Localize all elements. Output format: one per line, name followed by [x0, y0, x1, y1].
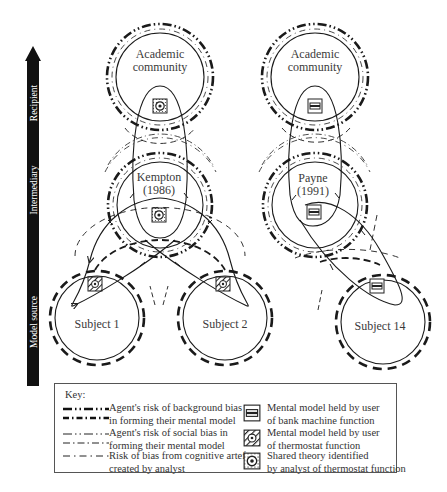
academic-right-line2: community — [288, 60, 343, 74]
key-item-background-bias-line1: Agent's risk of background bias — [109, 402, 242, 415]
kempton-line2: (1986) — [143, 183, 175, 197]
thermostat-model-icon — [88, 277, 102, 291]
academic-left-line1: Academic — [136, 47, 185, 61]
academic-right-line1: Academic — [291, 47, 340, 61]
key-item-shared-theory-line1: Shared theory identified — [267, 450, 406, 463]
thermostat-hatched-icon — [243, 429, 261, 447]
axis-label-intermediary: Intermediary — [29, 165, 39, 214]
key-item-artefact-bias-line2: created by analyst — [109, 463, 258, 476]
shared-theory-icon — [243, 452, 261, 470]
background-bias-line-icon — [63, 402, 109, 426]
key-item-background-bias-line2: in forming their mental model — [109, 415, 242, 428]
node-kempton: Kempton (1986) — [108, 153, 212, 257]
key-item-shared-theory: Shared theory identified by analyst of t… — [243, 450, 406, 475]
right-tree: Academic community Payne (1991) Subject … — [259, 24, 430, 369]
bank-machine-model-icon — [308, 99, 322, 113]
key-item-thermostat-line1: Mental model held by user — [267, 427, 380, 440]
key-item-bank-machine-line1: Mental model held by user — [267, 402, 380, 415]
node-academic-left: Academic community — [107, 24, 213, 130]
key-item-thermostat: Mental model held by user of thermostat … — [243, 427, 380, 452]
kempton-line1: Kempton — [137, 170, 182, 184]
subject14-label: Subject 14 — [355, 319, 406, 333]
bank-machine-model-icon — [370, 279, 384, 293]
key-item-shared-theory-line2: by analyst of thermostat function — [267, 463, 406, 476]
artefact-bias-line-icon — [63, 450, 109, 474]
shared-theory-icon — [152, 208, 166, 222]
subject2-label: Subject 2 — [203, 317, 248, 331]
axis-arrow-head-icon — [25, 46, 41, 61]
key-item-artefact-bias-line1: Risk of bias from cognitive artefact — [109, 450, 258, 463]
axis-label-model-source: Model source — [29, 296, 39, 348]
thermostat-model-icon — [216, 277, 230, 291]
bank-machine-icon — [243, 404, 261, 422]
social-bias-line-icon — [63, 427, 109, 451]
key-item-artefact-bias: Risk of bias from cognitive artefact cre… — [63, 450, 258, 475]
axis-label-recipient: Recipient — [29, 84, 39, 121]
key-item-bank-machine: Mental model held by user of bank machin… — [243, 402, 380, 427]
legend-key: Key: Agent's risk of background bias in … — [54, 383, 397, 473]
key-title: Key: — [65, 389, 85, 402]
payne-line2: (1991) — [297, 184, 329, 198]
payne-line1: Payne — [298, 171, 327, 185]
hierarchy-axis: Recipient Intermediary Model source — [25, 46, 41, 386]
node-academic-right: Academic community — [262, 24, 368, 130]
academic-left-line2: community — [133, 60, 188, 74]
left-tree: Academic community Kempton (1986) Subjec… — [50, 24, 272, 365]
bank-machine-model-icon — [307, 205, 321, 219]
key-item-background-bias: Agent's risk of background bias in formi… — [63, 402, 242, 427]
key-item-social-bias-line1: Agent's risk of social bias in — [109, 427, 228, 440]
subject1-label: Subject 1 — [75, 317, 120, 331]
key-item-bank-machine-line2: of bank machine function — [267, 415, 380, 428]
shared-theory-icon — [153, 99, 167, 113]
key-item-social-bias: Agent's risk of social bias in forming t… — [63, 427, 228, 452]
